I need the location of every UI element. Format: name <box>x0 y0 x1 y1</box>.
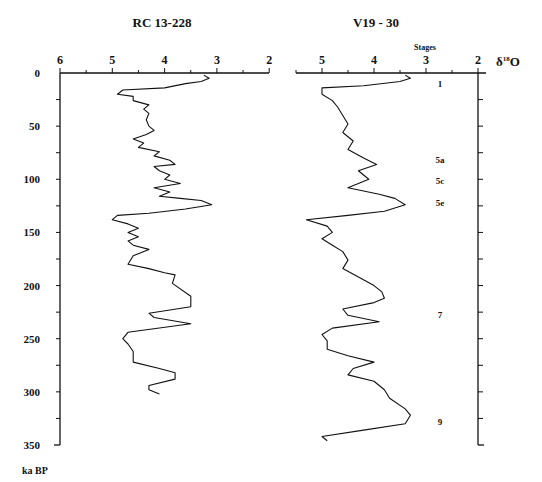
x-tick-label: 3 <box>214 53 220 67</box>
stages-label: Stages <box>414 43 436 52</box>
stage-label: 1 <box>438 79 443 89</box>
x-tick-label: 3 <box>423 53 429 67</box>
x-tick-label: 5 <box>109 53 115 67</box>
x-tick-label: 2 <box>475 53 481 67</box>
y-tick-label: 350 <box>24 439 41 451</box>
y-tick-label: 150 <box>24 226 41 238</box>
y-tick-label: 50 <box>29 120 41 132</box>
y-axis-label: ka BP <box>22 465 48 476</box>
isotope-curves <box>112 75 410 441</box>
y-tick-label: 300 <box>24 386 41 398</box>
y-tick-label: 100 <box>24 173 41 185</box>
left-panel-title: RC 13-228 <box>133 15 192 30</box>
rc13-228-curve <box>112 75 211 394</box>
stage-labels: 15a5c5e79 <box>436 79 446 427</box>
right-panel-title: V19 - 30 <box>353 15 399 30</box>
stage-label: 5e <box>436 198 445 208</box>
oxygen-isotope-chart: RC 13-228 V19 - 30 Stages δ18O ka BP 654… <box>0 0 542 482</box>
x-tick-label: 4 <box>371 53 377 67</box>
stage-label: 9 <box>438 417 443 427</box>
delta-o18-label: δ18O <box>496 54 520 69</box>
x-tick-label: 5 <box>319 53 325 67</box>
x-tick-label: 6 <box>57 53 63 67</box>
y-tick-label: 0 <box>35 67 41 79</box>
y-tick-label: 200 <box>24 280 41 292</box>
v19-30-curve <box>306 75 410 441</box>
stage-label: 7 <box>438 310 443 320</box>
y-tick-label: 250 <box>24 333 41 345</box>
x-tick-label: 4 <box>162 53 168 67</box>
stage-label: 5c <box>436 176 445 186</box>
right-axes: 5432 <box>296 53 486 445</box>
stage-label: 5a <box>436 155 446 165</box>
x-tick-label: 2 <box>266 53 272 67</box>
